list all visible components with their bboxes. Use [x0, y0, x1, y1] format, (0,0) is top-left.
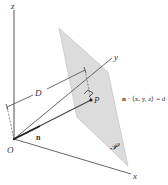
equation-rest: · ⟨x, y, z⟩ = d — [126, 95, 166, 103]
plane-equation: n · ⟨x, y, z⟩ = d — [122, 95, 166, 103]
point-p — [89, 98, 92, 101]
x-axis-label: x — [132, 171, 137, 181]
origin-label: O — [7, 145, 14, 155]
plane-distance-diagram: z y x O P n D 𝒫 n · ⟨x, y, z⟩ = d — [0, 0, 168, 185]
distance-label: D — [34, 88, 42, 98]
origin-point — [13, 138, 15, 140]
z-axis-label: z — [10, 1, 15, 11]
distance-bracket — [7, 95, 33, 107]
normal-label: n — [36, 133, 41, 142]
point-p-label: P — [93, 95, 100, 105]
dashed-extension-origin — [7, 107, 14, 139]
y-axis-label: y — [113, 52, 118, 62]
